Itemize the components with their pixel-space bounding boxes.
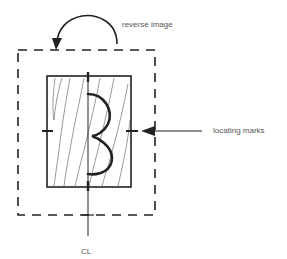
- reverse-arrow-icon: [57, 16, 117, 44]
- reversed-glyph: [88, 94, 112, 174]
- locating-marks-label: locating marks: [213, 127, 265, 135]
- diagram-canvas: reverse image locating marks CL: [0, 0, 287, 259]
- reverse-image-label: reverse image: [122, 21, 173, 29]
- center-line-label: CL: [81, 248, 91, 256]
- reverse-arrowhead: [52, 38, 62, 50]
- locating-arrowhead-icon: [141, 126, 155, 136]
- outer-dashed-frame: [18, 50, 155, 215]
- inner-block: [47, 76, 131, 187]
